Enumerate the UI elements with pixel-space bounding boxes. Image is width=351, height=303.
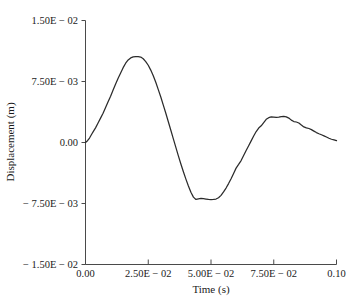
y-tick-label: − 1.50E − 02 <box>23 259 78 270</box>
x-axis-title: Time (s) <box>192 283 230 296</box>
x-axis-tick-labels: 0.00 2.50E − 02 5.00E − 02 7.50E − 02 0.… <box>76 268 345 279</box>
y-tick-label: 0.00 <box>60 137 78 148</box>
y-axis-title: Displacement (m) <box>4 102 17 181</box>
x-axis-tickmarks <box>86 260 337 265</box>
chart-figure: 1.50E − 02 7.50E − 03 0.00 − 7.50E − 03 … <box>0 0 351 303</box>
x-tick-label: 0.00 <box>76 268 94 279</box>
displacement-series-line <box>86 57 337 200</box>
axis-spines <box>86 21 337 265</box>
x-tick-label: 2.50E − 02 <box>125 268 171 279</box>
y-axis-tick-labels: 1.50E − 02 7.50E − 03 0.00 − 7.50E − 03 … <box>23 15 78 270</box>
x-tick-label: 5.00E − 02 <box>188 268 234 279</box>
y-tick-label: − 7.50E − 03 <box>23 198 78 209</box>
y-tick-label: 1.50E − 02 <box>32 15 78 26</box>
y-tick-label: 7.50E − 03 <box>32 76 78 87</box>
x-tick-label: 7.50E − 02 <box>251 268 297 279</box>
displacement-time-line-chart: 1.50E − 02 7.50E − 03 0.00 − 7.50E − 03 … <box>0 0 351 303</box>
x-tick-label: 0.10 <box>327 268 345 279</box>
